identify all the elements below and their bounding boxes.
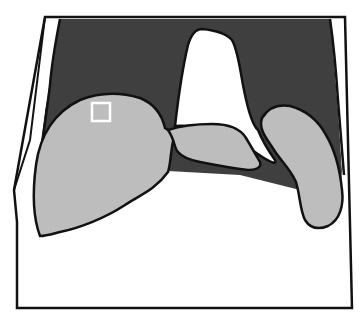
diagram-svg: [0, 0, 362, 316]
diagram-canvas: [0, 0, 362, 316]
